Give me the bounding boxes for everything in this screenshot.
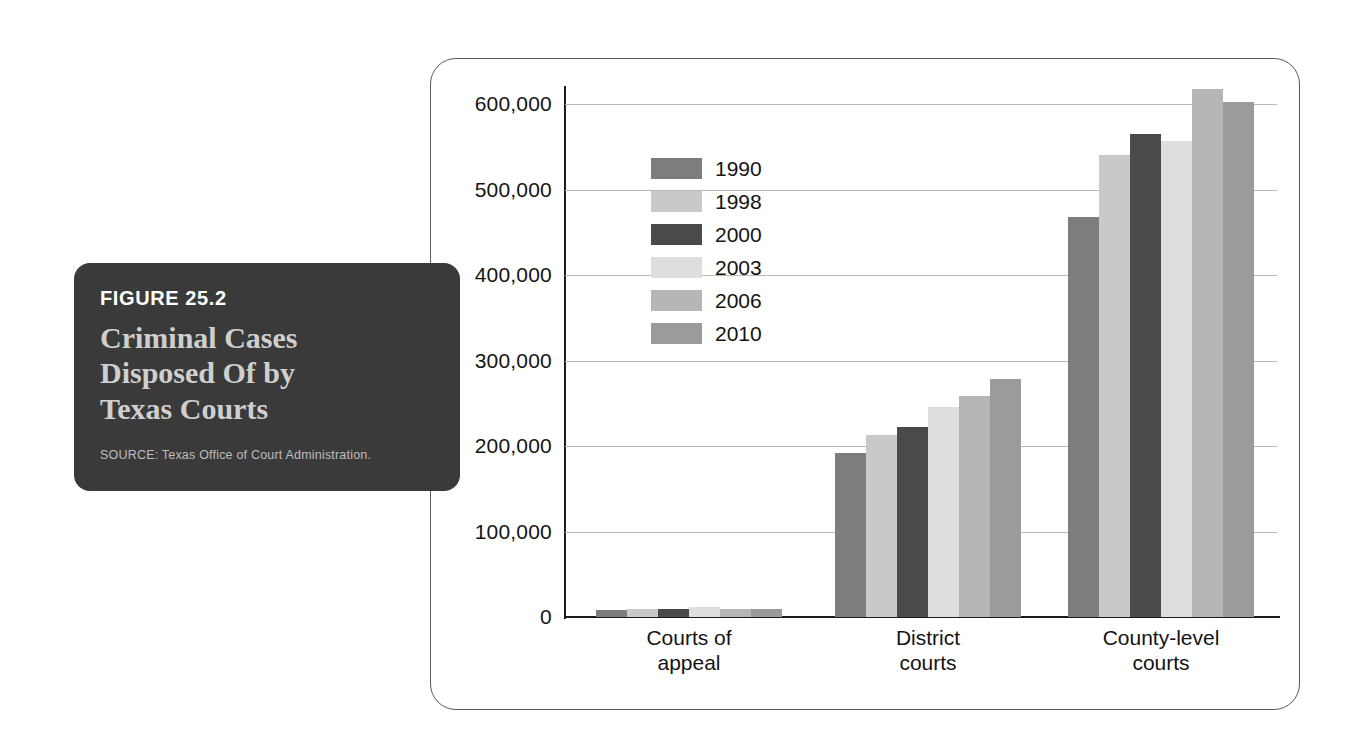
bar-county-level-courts-2003[interactable]	[1161, 141, 1192, 617]
bar-courts-of-appeal-2003[interactable]	[689, 607, 720, 617]
bar-courts-of-appeal-2000[interactable]	[658, 609, 689, 617]
legend-swatch-1990	[651, 158, 702, 179]
legend-swatch-2000	[651, 224, 702, 245]
bar-county-level-courts-2010[interactable]	[1223, 102, 1254, 617]
bar-group-2	[1068, 104, 1254, 617]
legend-swatch-2006	[651, 290, 702, 311]
legend-item-1990[interactable]: 1990	[651, 152, 762, 185]
bar-district-courts-2010[interactable]	[990, 379, 1021, 617]
bar-county-level-courts-2006[interactable]	[1192, 89, 1223, 617]
bar-courts-of-appeal-2010[interactable]	[751, 609, 782, 617]
x-category-label-2: County-levelcourts	[1051, 626, 1271, 676]
figure-number-label: FIGURE 25.2	[100, 287, 434, 310]
legend-item-2010[interactable]: 2010	[651, 317, 762, 350]
figure-title-line-1: Criminal Cases	[100, 320, 434, 355]
figure-caption-box: FIGURE 25.2 Criminal Cases Disposed Of b…	[74, 263, 460, 491]
legend-item-2003[interactable]: 2003	[651, 251, 762, 284]
x-category-label-1-line1: District	[818, 626, 1038, 651]
figure-title-line-3: Texas Courts	[100, 391, 434, 426]
bar-county-level-courts-2000[interactable]	[1130, 134, 1161, 617]
bar-district-courts-2000[interactable]	[897, 427, 928, 617]
bar-courts-of-appeal-2006[interactable]	[720, 609, 751, 617]
legend-label-2006: 2006	[715, 290, 762, 311]
legend-swatch-2003	[651, 257, 702, 278]
bar-courts-of-appeal-1990[interactable]	[596, 610, 627, 617]
legend-label-2000: 2000	[715, 224, 762, 245]
legend-label-1990: 1990	[715, 158, 762, 179]
bar-district-courts-1990[interactable]	[835, 453, 866, 617]
bar-group-1	[835, 104, 1021, 617]
bar-county-level-courts-1998[interactable]	[1099, 155, 1130, 617]
legend-item-2000[interactable]: 2000	[651, 218, 762, 251]
x-category-label-1: Districtcourts	[818, 626, 1038, 676]
bar-district-courts-2006[interactable]	[959, 396, 990, 617]
legend-swatch-1998	[651, 191, 702, 212]
x-category-label-0-line1: Courts of	[579, 626, 799, 651]
x-category-label-1-line2: courts	[818, 651, 1038, 676]
y-tick-label-500000: 500,000	[432, 179, 552, 200]
legend-swatch-2010	[651, 323, 702, 344]
chart-legend: 199019982000200320062010	[651, 152, 762, 350]
legend-label-1998: 1998	[715, 191, 762, 212]
x-category-label-0-line2: appeal	[579, 651, 799, 676]
bar-county-level-courts-1990[interactable]	[1068, 217, 1099, 617]
bar-district-courts-1998[interactable]	[866, 435, 897, 617]
y-tick-label-0: 0	[432, 606, 552, 627]
legend-label-2003: 2003	[715, 257, 762, 278]
legend-item-1998[interactable]: 1998	[651, 185, 762, 218]
figure-title: Criminal Cases Disposed Of by Texas Cour…	[100, 320, 434, 426]
x-category-label-2-line1: County-level	[1051, 626, 1271, 651]
x-category-label-0: Courts ofappeal	[579, 626, 799, 676]
y-tick-label-100000: 100,000	[432, 521, 552, 542]
bar-courts-of-appeal-1998[interactable]	[627, 609, 658, 617]
y-tick-label-600000: 600,000	[432, 93, 552, 114]
legend-item-2006[interactable]: 2006	[651, 284, 762, 317]
figure-title-line-2: Disposed Of by	[100, 355, 434, 390]
figure-source-note: SOURCE: Texas Office of Court Administra…	[100, 448, 434, 462]
bar-district-courts-2003[interactable]	[928, 407, 959, 617]
x-category-label-2-line2: courts	[1051, 651, 1271, 676]
legend-label-2010: 2010	[715, 323, 762, 344]
